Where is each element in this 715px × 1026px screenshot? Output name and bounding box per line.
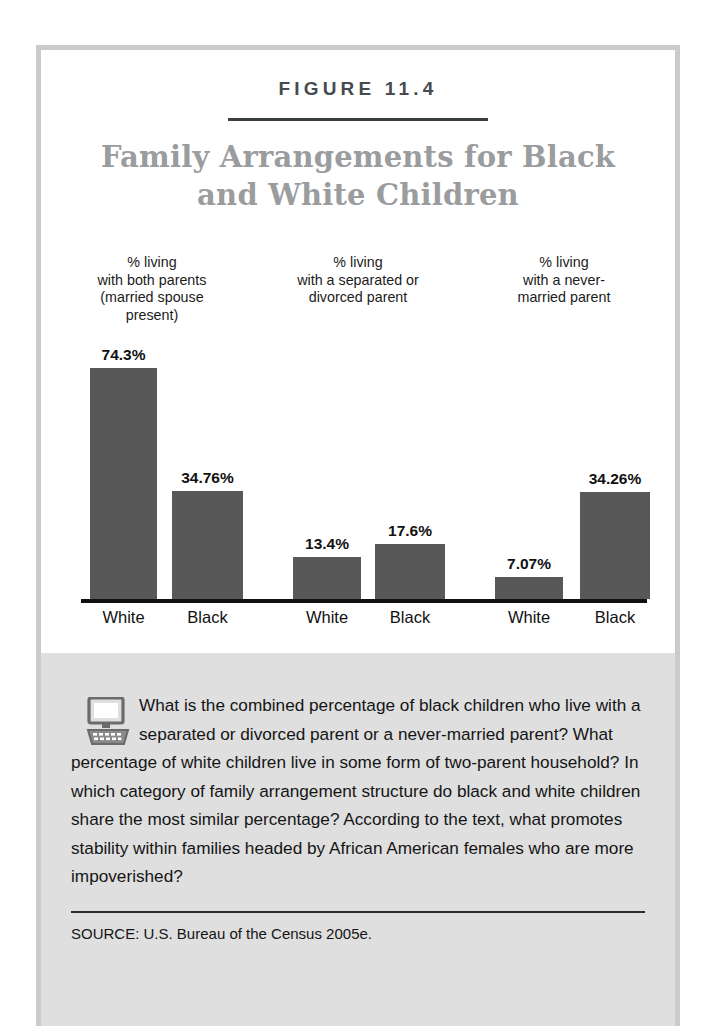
figure-frame: FIGURE 11.4 Family Arrangements for Blac… [36, 45, 680, 1026]
bar-group1-black [172, 491, 243, 599]
group-header-row: % living with both parents (married spou… [49, 254, 667, 324]
bar-value-group3-black: 34.26% [558, 470, 672, 488]
category-label-group3-black: Black [564, 608, 666, 627]
bar-value-group2-black: 17.6% [353, 522, 467, 540]
computer-icon [85, 697, 131, 745]
source-label: SOURCE: U.S. Bureau of the Census 2005e. [71, 925, 645, 942]
bar-group2-black [375, 544, 445, 599]
group-header-both-parents: % living with both parents (married spou… [49, 254, 255, 324]
bar-value-group1-black: 34.76% [150, 469, 265, 487]
bar-group3-white [495, 577, 563, 599]
group-header-separated-divorced: % living with a separated or divorced pa… [255, 254, 461, 324]
group-header-never-married: % living with a never- married parent [461, 254, 667, 324]
page-title: Family Arrangements for Black and White … [41, 138, 675, 214]
bar-value-group1-white: 74.3% [68, 346, 179, 364]
category-label-group2-black: Black [359, 608, 461, 627]
plot-area: 74.3% 34.76% 13.4% 17.6% 7.07% 34.26% [41, 350, 675, 603]
source-divider-rule [71, 911, 645, 913]
figure-divider-rule [228, 118, 488, 121]
question-panel: What is the combined percentage of black… [41, 653, 675, 1026]
bar-value-group3-white: 7.07% [473, 555, 585, 573]
chart-panel: FIGURE 11.4 Family Arrangements for Blac… [41, 50, 675, 653]
bar-group3-black [580, 492, 650, 599]
bar-group2-white [293, 557, 361, 599]
question-text: What is the combined percentage of black… [71, 691, 645, 891]
x-axis-line [81, 599, 647, 603]
figure-number-label: FIGURE 11.4 [41, 78, 675, 100]
bar-group1-white [90, 368, 157, 599]
category-label-group1-black: Black [156, 608, 259, 627]
category-label-row: White Black White Black White Black [41, 608, 675, 636]
